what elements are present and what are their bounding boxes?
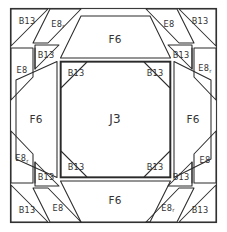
corner-bl-parallelogram-v-suffix: r [26, 158, 29, 164]
corner-tl-outer-triangle-label: B13 [19, 16, 36, 26]
inner-triangle-top-right-label: B13 [147, 68, 164, 78]
inner-triangle-bottom-left-label: B13 [68, 162, 85, 172]
corner-br-parallelogram-horizontal-label: E8r [161, 203, 175, 213]
corner-tr-parallelogram-vertical-label: E8r [198, 63, 212, 74]
corner-bl-parallelogram-vertical-label: E8r [15, 153, 29, 164]
corner-tr-parallelogram-horizontal-label: E8 [164, 19, 175, 29]
corner-tl-parallelogram-h-base: E8 [51, 19, 62, 29]
corner-tl-parallelogram-horizontal-label: E8r [51, 19, 65, 29]
corner-br-outer-triangle-label: B13 [192, 205, 209, 215]
inner-triangle-top-left-label: B13 [68, 68, 85, 78]
corner-bl-parallelogram-horizontal-label: E8 [53, 203, 64, 213]
corner-tl-parallelogram-vertical-label: E8 [17, 65, 28, 75]
trapezoid-top-label: F6 [108, 33, 121, 45]
corner-tr-parallelogram-v-suffix: r [209, 68, 212, 74]
trapezoid-bottom-label: F6 [108, 194, 121, 206]
corner-br-parallelogram-vertical-label: E8 [200, 155, 211, 165]
trapezoid-left-label: F6 [29, 113, 42, 125]
corner-br-outer-triangle [179, 185, 216, 222]
center-octagon-label: J3 [108, 112, 121, 126]
corner-br-parallelogram-h-suffix: r [172, 207, 175, 213]
corner-bl-inner-triangle-label: B13 [38, 172, 55, 182]
corner-bl-parallelogram-v-base: E8 [15, 153, 26, 163]
corner-tl-inner-triangle-label: B13 [38, 50, 55, 60]
corner-bl-outer-triangle-label: B13 [19, 205, 36, 215]
inner-triangle-bottom-right-label: B13 [147, 162, 164, 172]
corner-bl-outer-triangle [11, 185, 48, 222]
corner-tr-inner-triangle-label: B13 [173, 50, 190, 60]
corner-tr-parallelogram-v-base: E8 [198, 63, 209, 73]
corner-br-inner-triangle-label: B13 [173, 172, 190, 182]
corner-tr-outer-triangle-label: B13 [192, 16, 209, 26]
quilt-block-diagram: J3 B13 B13 B13 B13 F6 F6 F6 F6 B13 E8r B… [0, 0, 227, 232]
corner-tr-parallelogram-vertical [194, 48, 216, 100]
trapezoid-right-label: F6 [186, 113, 199, 125]
corner-br-parallelogram-h-base: E8 [161, 203, 172, 213]
